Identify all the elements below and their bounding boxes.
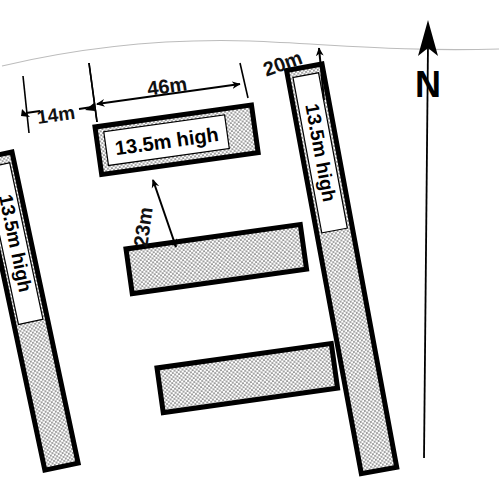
- block-bottom-outline: [157, 344, 338, 413]
- block-bottom[interactable]: [157, 344, 338, 413]
- dim-46m-label: 46m: [146, 72, 189, 99]
- north-arrow-icon: N: [415, 20, 441, 458]
- dim-14m-label: 14m: [36, 102, 77, 128]
- block-top[interactable]: 13.5m high: [95, 105, 258, 175]
- site-plan-drawing: 13.5m high 13.5m high 13.5m high: [0, 0, 499, 497]
- dim-14m: 14m: [21, 63, 97, 133]
- dim-23m: 23m: [129, 180, 176, 248]
- block-left[interactable]: 13.5m high: [0, 152, 78, 470]
- block-middle[interactable]: [126, 225, 307, 294]
- dim-23m-label: 23m: [129, 206, 156, 249]
- block-middle-outline: [126, 225, 307, 294]
- north-label: N: [415, 64, 441, 105]
- site-plan-canvas: 13.5m high 13.5m high 13.5m high: [0, 0, 499, 497]
